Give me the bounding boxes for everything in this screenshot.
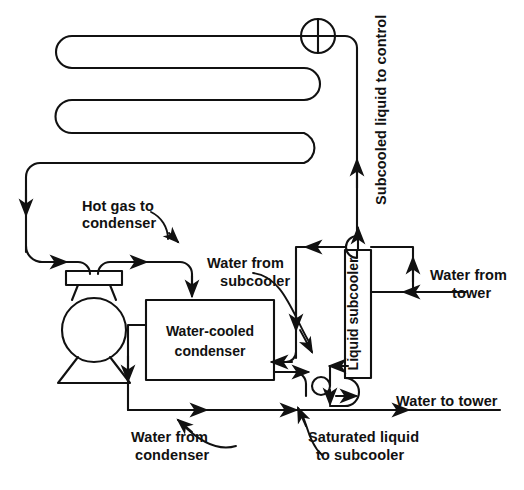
refrigeration-system-diagram: Hot gas to condenser Water from subcoole… [0, 0, 524, 490]
subcooler-top-outlet [296, 247, 345, 358]
water-to-tower-label: Water to tower [396, 393, 498, 409]
condenser-label-line1: Water-cooled [166, 323, 254, 339]
water-from-subcooler-leader-arrow [300, 330, 312, 352]
water-cooled-condenser-box [146, 300, 274, 380]
crossed-circle-valve[interactable] [301, 19, 335, 53]
saturated-liquid-line [312, 366, 345, 395]
pipe-hop-riser [346, 236, 357, 258]
water-from-tower-label-line1: Water from [430, 267, 507, 283]
water-from-tower-label-line2: tower [452, 285, 491, 301]
diagram-canvas: Hot gas to condenser Water from subcoole… [0, 0, 524, 490]
condenser-label-line2: condenser [175, 343, 246, 359]
subcooler-to-condenser-bend [276, 352, 296, 362]
water-from-condenser-label-line2: condenser [135, 447, 209, 463]
condenser-liquid-outlet [274, 372, 306, 396]
subcooled-liquid-label: Subcooled liquid to control [373, 15, 389, 205]
saturated-liquid-label-line1: Saturated liquid [308, 429, 419, 445]
saturated-liquid-label-line2: to subcooler [316, 447, 404, 463]
subcooler-water-bypass [371, 247, 413, 292]
water-from-condenser-label-line1: Water from [131, 429, 208, 445]
subcooled-liquid-riser [335, 36, 357, 236]
hot-gas-label-line2: condenser [82, 215, 156, 231]
compressor [58, 271, 130, 383]
suction-line [26, 246, 90, 274]
subcooler-bottom-return [330, 378, 359, 406]
water-from-subcooler-label-line2: subcooler [220, 273, 290, 289]
hot-gas-leader-arrow [169, 233, 178, 242]
evaporator-coil [26, 36, 320, 252]
condenser-water-inlet [128, 325, 146, 410]
subcooler-label: Liquid subcooler [345, 257, 361, 370]
water-from-subcooler-label-line1: Water from [207, 255, 284, 271]
hot-gas-label-line1: Hot gas to [82, 198, 154, 214]
